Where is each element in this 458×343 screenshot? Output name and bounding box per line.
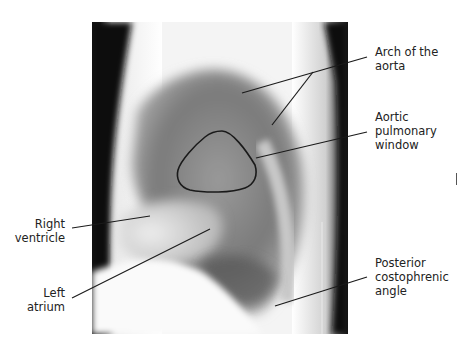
label-line: aorta <box>375 59 438 73</box>
leader-line-arch-aorta-1 <box>242 57 367 93</box>
leader-line-right-ventricle <box>72 216 150 228</box>
label-line: Left <box>27 286 65 300</box>
label-line: Right <box>15 217 65 231</box>
leader-line-left-atrium <box>72 229 210 298</box>
leader-line-costophrenic <box>275 277 367 306</box>
leader-line-ap-window <box>256 132 367 158</box>
label-aortic-pulmonary-window: Aortic pulmonary window <box>375 110 437 152</box>
label-line: costophrenic <box>375 270 449 284</box>
leader-line-arch-aorta-2 <box>272 72 313 125</box>
aortic-pulmonary-window-outline <box>177 131 256 192</box>
label-line: Posterior <box>375 256 449 270</box>
label-line: pulmonary <box>375 124 437 138</box>
label-posterior-costophrenic-angle: Posterior costophrenic angle <box>375 256 449 298</box>
label-line: Aortic <box>375 110 437 124</box>
label-line: atrium <box>27 300 65 314</box>
label-right-ventricle: Right ventricle <box>15 217 65 245</box>
label-left-atrium: Left atrium <box>27 286 65 314</box>
label-line: ventricle <box>15 231 65 245</box>
label-line: Arch of the <box>375 45 438 59</box>
label-arch-of-aorta: Arch of the aorta <box>375 45 438 73</box>
label-line: angle <box>375 284 449 298</box>
label-line: window <box>375 138 437 152</box>
edge-mark <box>456 173 457 185</box>
